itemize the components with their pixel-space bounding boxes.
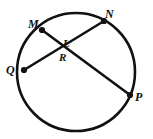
point-label-p: P — [135, 91, 142, 103]
point-dot-q — [21, 67, 27, 73]
interior-label-l: L — [63, 38, 70, 49]
circle-diagram-svg — [0, 0, 153, 139]
geometry-figure: M N P Q L R — [0, 0, 153, 139]
chord-m-p — [42, 30, 130, 95]
interior-label-r: R — [59, 52, 66, 63]
point-label-n: N — [105, 8, 114, 20]
point-label-m: M — [28, 18, 39, 30]
point-dot-m — [39, 27, 45, 33]
point-label-q: Q — [6, 64, 15, 76]
point-dot-p — [127, 92, 133, 98]
